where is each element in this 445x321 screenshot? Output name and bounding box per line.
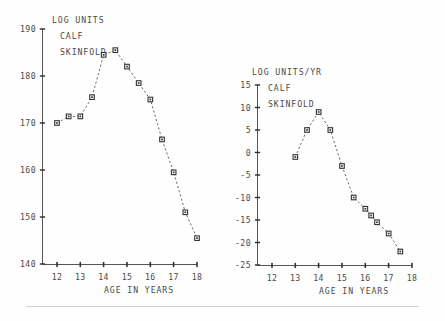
data-point-center: [68, 116, 70, 118]
data-point-center: [114, 49, 116, 51]
data-point-center: [364, 208, 366, 210]
distance-x-tick-label-14: 14: [98, 272, 109, 282]
velocity-x-tick-label-16: 16: [360, 273, 371, 283]
data-point-center: [79, 116, 81, 118]
velocity-x-tick-label-13: 13: [290, 273, 301, 283]
velocity-y-tick-label-5: 5: [246, 125, 251, 135]
velocity-y-ticks: 15 10 5 0 -5 -10 -15 -20 -25: [235, 80, 260, 270]
velocity-x-tick-label-18: 18: [407, 273, 418, 283]
distance-x-tick-label-12: 12: [52, 272, 63, 282]
footer-divider: [26, 306, 419, 307]
velocity-y-tick-label-minus20: -20: [235, 238, 251, 248]
velocity-x-ticks: 12 13 14 15 16 17 18: [267, 264, 418, 284]
distance-y-tick-label-140: 140: [20, 259, 36, 269]
distance-header-line-3: SKINFOLD: [60, 47, 107, 57]
velocity-x-axis-title: AGE IN YEARS: [319, 286, 389, 296]
data-point-center: [173, 172, 175, 174]
velocity-x-tick-label-17: 17: [383, 273, 394, 283]
velocity-header-line-1: LOG UNITS/YR: [252, 67, 322, 77]
distance-y-tick-label-190: 190: [20, 24, 36, 34]
data-point-center: [149, 99, 151, 101]
velocity-x-tick-label-12: 12: [267, 273, 278, 283]
velocity-y-tick-label-minus25: -25: [235, 260, 251, 270]
distance-x-tick-label-17: 17: [168, 272, 179, 282]
data-point-center: [399, 251, 401, 253]
distance-header-line-2: CALF: [60, 31, 83, 41]
data-point-center: [294, 156, 296, 158]
chart-panel-velocity: LOG UNITS/YR CALF SKINFOLD 15 10 5 0 -5: [230, 0, 445, 306]
data-point-center: [56, 122, 58, 124]
velocity-chart-svg: LOG UNITS/YR CALF SKINFOLD 15 10 5 0 -5: [230, 0, 445, 306]
velocity-x-tick-label-14: 14: [313, 273, 324, 283]
distance-series-markers: [55, 48, 200, 241]
distance-x-tick-label-18: 18: [192, 272, 203, 282]
data-point-center: [318, 111, 320, 113]
data-point-center: [370, 215, 372, 217]
distance-y-tick-label-160: 160: [20, 165, 36, 175]
distance-chart-svg: LOG UNITS CALF SKINFOLD 190 180 170 160 …: [0, 0, 230, 306]
velocity-y-tick-label-15: 15: [240, 80, 251, 90]
distance-y-tick-label-180: 180: [20, 71, 36, 81]
distance-series-line: [57, 50, 197, 238]
distance-x-tick-label-15: 15: [122, 272, 133, 282]
velocity-header-line-3: SKINFOLD: [268, 99, 315, 109]
chart-panel-distance: LOG UNITS CALF SKINFOLD 190 180 170 160 …: [0, 0, 230, 306]
data-point-center: [103, 54, 105, 56]
distance-y-tick-label-170: 170: [20, 118, 36, 128]
velocity-y-tick-label-minus5: -5: [240, 170, 251, 180]
distance-x-axis-title: AGE IN YEARS: [104, 285, 174, 295]
velocity-y-tick-label-10: 10: [240, 103, 251, 113]
data-point-center: [196, 237, 198, 239]
distance-x-ticks: 12 13 14 15 16 17 18: [52, 263, 203, 283]
velocity-x-tick-label-15: 15: [337, 273, 348, 283]
data-point-center: [388, 233, 390, 235]
data-point-center: [353, 197, 355, 199]
data-point-center: [91, 96, 93, 98]
distance-x-tick-label-13: 13: [75, 272, 86, 282]
velocity-y-tick-label-minus15: -15: [235, 215, 251, 225]
figure-canvas: LOG UNITS CALF SKINFOLD 190 180 170 160 …: [0, 0, 445, 321]
data-point-center: [329, 129, 331, 131]
distance-y-tick-label-150: 150: [20, 212, 36, 222]
data-point-center: [376, 221, 378, 223]
velocity-series-markers: [293, 110, 403, 254]
distance-x-tick-label-16: 16: [145, 272, 156, 282]
velocity-y-tick-label-0: 0: [246, 148, 251, 158]
velocity-header-line-2: CALF: [268, 83, 291, 93]
distance-header-line-1: LOG UNITS: [52, 15, 104, 25]
data-point-center: [184, 211, 186, 213]
data-point-center: [161, 139, 163, 141]
velocity-series-line: [295, 112, 400, 252]
data-point-center: [306, 129, 308, 131]
distance-y-ticks: 190 180 170 160 150 140: [20, 24, 45, 269]
data-point-center: [126, 66, 128, 68]
data-point-center: [341, 165, 343, 167]
velocity-y-tick-label-minus10: -10: [235, 193, 251, 203]
data-point-center: [138, 82, 140, 84]
